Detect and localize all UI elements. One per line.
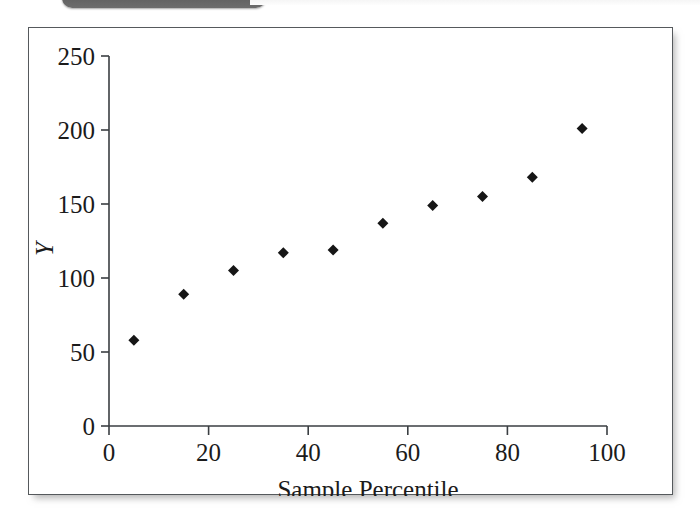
top-banner-strip bbox=[250, 0, 700, 5]
x-tick-label: 100 bbox=[588, 439, 626, 466]
data-series bbox=[128, 123, 587, 346]
x-tick-label: 60 bbox=[395, 439, 420, 466]
scatter-plot: 050100150200250020406080100Sample Percen… bbox=[29, 28, 674, 496]
y-tick-label: 150 bbox=[58, 191, 96, 218]
y-tick-label: 0 bbox=[83, 413, 96, 440]
top-tab-banner bbox=[62, 0, 266, 8]
data-point-marker bbox=[377, 218, 388, 229]
data-point-marker bbox=[577, 123, 588, 134]
data-point-marker bbox=[228, 265, 239, 276]
data-point-marker bbox=[178, 289, 189, 300]
data-point-marker bbox=[328, 244, 339, 255]
x-axis-title: Sample Percentile bbox=[277, 476, 458, 496]
data-point-marker bbox=[527, 172, 538, 183]
y-tick-label: 250 bbox=[58, 43, 96, 70]
x-tick-label: 80 bbox=[495, 439, 520, 466]
x-tick-label: 20 bbox=[196, 439, 221, 466]
data-point-marker bbox=[278, 247, 289, 258]
figure-frame: 050100150200250020406080100Sample Percen… bbox=[28, 27, 673, 495]
y-tick-label: 200 bbox=[58, 117, 96, 144]
y-tick-label: 50 bbox=[70, 339, 95, 366]
data-point-marker bbox=[477, 191, 488, 202]
x-tick-label: 40 bbox=[296, 439, 321, 466]
y-axis-title: Y bbox=[31, 239, 58, 256]
data-point-marker bbox=[128, 335, 139, 346]
data-point-marker bbox=[427, 200, 438, 211]
y-tick-label: 100 bbox=[58, 265, 96, 292]
x-tick-label: 0 bbox=[103, 439, 116, 466]
